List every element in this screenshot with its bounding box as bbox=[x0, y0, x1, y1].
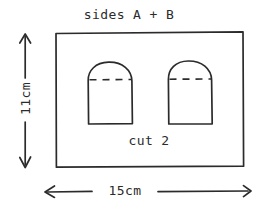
pattern-diagram: sides A + B cut 2 15cm 11cm bbox=[0, 0, 258, 213]
width-dimension-line-right bbox=[158, 191, 248, 192]
arch-piece-right-outline bbox=[168, 61, 212, 124]
arch-piece-left-outline bbox=[88, 62, 132, 124]
diagram-title: sides A + B bbox=[0, 7, 258, 22]
diagram-drawing bbox=[0, 0, 258, 213]
width-dimension-line-left bbox=[48, 191, 93, 192]
height-dimension-label: 11cm bbox=[18, 69, 33, 129]
cut-quantity-label: cut 2 bbox=[55, 133, 243, 148]
width-dimension-label: 15cm bbox=[95, 183, 155, 198]
